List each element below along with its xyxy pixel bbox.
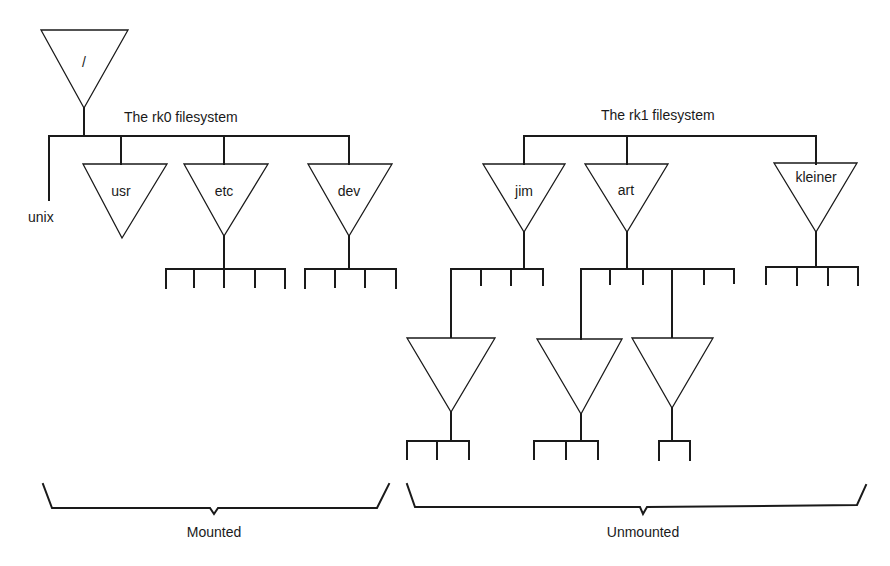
art-label: art — [618, 183, 634, 197]
unix-label: unix — [28, 210, 54, 224]
unmounted-label: Unmounted — [607, 525, 679, 539]
etc-label: etc — [215, 184, 234, 198]
root-label: / — [82, 55, 86, 69]
filesystem-diagram — [0, 0, 890, 566]
etc-children — [166, 269, 285, 288]
unmounted-brace — [407, 484, 866, 514]
rk1-title: The rk1 filesystem — [601, 108, 715, 122]
kleiner-label: kleiner — [795, 170, 836, 184]
mounted-brace — [43, 484, 389, 514]
art-triangle — [585, 164, 668, 232]
art-subtree-2-children — [659, 441, 690, 460]
dev-triangle — [308, 164, 392, 236]
usr-triangle — [83, 164, 167, 238]
art-subtree-2-triangle — [632, 338, 713, 408]
dev-children — [305, 269, 396, 288]
kleiner-children — [766, 267, 858, 285]
art-children — [581, 269, 734, 339]
etc-triangle — [184, 164, 268, 236]
usr-label: usr — [111, 184, 130, 198]
rk1-bus — [524, 136, 816, 164]
jim-label: jim — [515, 184, 533, 198]
jim-children — [451, 269, 543, 337]
art-subtree-1-triangle — [537, 339, 622, 414]
rk0-title: The rk0 filesystem — [124, 110, 238, 124]
jim-subtree-triangle — [407, 338, 495, 412]
dev-label: dev — [338, 184, 361, 198]
mounted-label: Mounted — [187, 525, 241, 539]
